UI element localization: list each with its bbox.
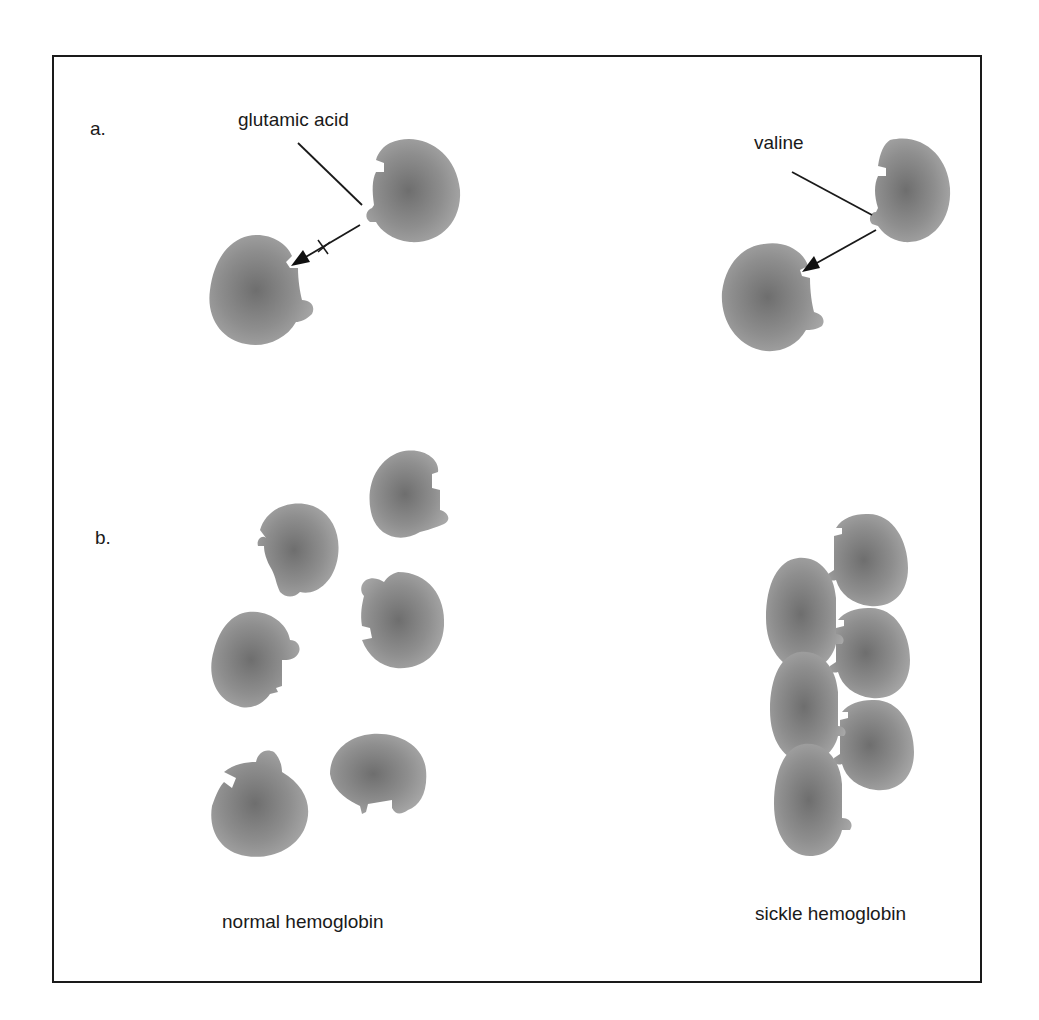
glutamic-acid-molecule-acceptor xyxy=(209,235,313,345)
panel-b-label: b. xyxy=(95,528,111,547)
panel-a-label: a. xyxy=(90,119,106,138)
hemoglobin-diagram xyxy=(0,0,1039,1020)
sickle-molecule xyxy=(827,514,908,606)
valine-molecule-acceptor xyxy=(722,243,824,351)
blocked-x-mark xyxy=(318,240,330,254)
glutamic-acid-label: glutamic acid xyxy=(238,110,349,129)
blocked-arrow-shaft xyxy=(304,225,360,258)
sickle-molecule xyxy=(829,608,910,698)
glutamic-acid-molecule-donor xyxy=(366,139,460,242)
normal-molecule xyxy=(330,734,426,814)
valine-label: valine xyxy=(754,133,804,152)
normal-molecule xyxy=(361,572,444,668)
normal-molecule xyxy=(370,451,449,538)
sickle-hemoglobin-caption: sickle hemoglobin xyxy=(755,904,906,923)
normal-hemoglobin-molecules xyxy=(211,451,448,857)
normal-molecule xyxy=(211,612,299,708)
valine-molecule-donor xyxy=(870,138,950,242)
blocked-arrow-head xyxy=(291,250,310,266)
binding-arrow-shaft xyxy=(815,230,876,264)
normal-molecule xyxy=(258,504,339,597)
normal-hemoglobin-caption: normal hemoglobin xyxy=(222,912,384,931)
sickle-molecule xyxy=(833,700,914,790)
normal-molecule xyxy=(211,750,308,856)
valine-pointer xyxy=(792,172,872,215)
sickle-hemoglobin-polymer xyxy=(766,514,914,856)
glutamic-acid-pointer xyxy=(298,143,362,205)
